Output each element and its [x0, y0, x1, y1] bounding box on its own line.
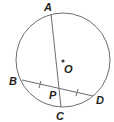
circle-chord-diagram: A O B P D C	[0, 0, 114, 122]
label-b: B	[9, 75, 17, 87]
label-a: A	[43, 1, 52, 13]
label-c: C	[56, 110, 65, 122]
label-d: D	[96, 94, 104, 106]
chord-bd	[22, 80, 93, 96]
label-p: P	[49, 89, 57, 101]
label-o: O	[64, 63, 73, 75]
